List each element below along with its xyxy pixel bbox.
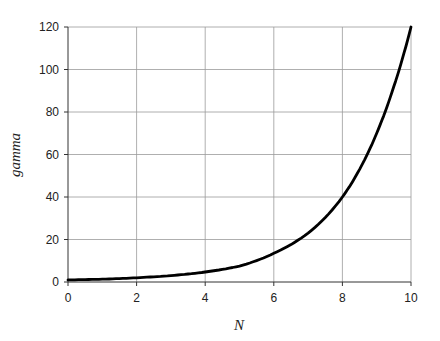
y-tick-label: 80 [46,105,60,119]
x-tick-labels: 0246810 [65,291,418,305]
x-tick-label: 4 [202,291,209,305]
y-tick-label: 120 [39,20,59,34]
y-tick-label: 100 [39,63,59,77]
y-tick-label: 20 [46,233,60,247]
x-tick-label: 6 [270,291,277,305]
x-tick-label: 8 [339,291,346,305]
x-tick-label: 2 [133,291,140,305]
chart: 020406080100120 0246810 gamma N [0,0,440,341]
x-tick-label: 0 [65,291,72,305]
y-tick-label: 60 [46,148,60,162]
gamma-curve [68,27,411,280]
axes [64,27,411,286]
y-tick-label: 40 [46,190,60,204]
y-tick-labels: 020406080100120 [39,20,59,289]
y-tick-label: 0 [52,275,59,289]
y-axis-label: gamma [7,133,23,177]
gridlines [68,27,411,282]
x-axis-label: N [233,317,245,333]
x-tick-label: 10 [404,291,418,305]
